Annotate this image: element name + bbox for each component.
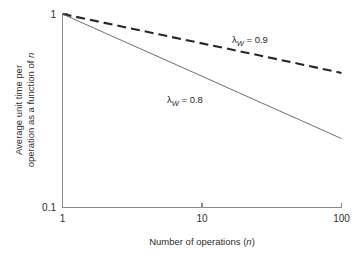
x-axis-title-prefix: Number of operations ( [149,236,247,247]
y-ticklabel-0.1: 0.1 [42,202,56,213]
y-axis-title: Average unit time per operation as a fun… [13,53,36,168]
x-ticklabel-1: 1 [60,213,66,224]
chart-svg: 1 10 100 1 0.1 Number of operations (n) … [0,0,362,257]
annotation-lambda-0-8: λW = 0.8 [167,94,203,108]
annotation-value-low: 0.8 [190,94,203,105]
y-ticklabel-1: 1 [50,9,56,20]
x-ticklabel-10: 10 [196,213,208,224]
x-axis-title-suffix: ) [252,236,255,247]
x-ticklabel-100: 100 [333,213,350,224]
x-axis-ticks [63,203,342,208]
y-axis-title-line1: Average unit time per [13,65,24,155]
y-axis-ticks [63,14,68,208]
series-line-lambda-0-8 [63,14,342,139]
annotation-equals-low: = [179,94,190,105]
y-axis-title-variable: n [25,53,36,58]
series-line-lambda-0-9 [63,14,342,73]
annotation-value-high: 0.9 [255,34,268,45]
y-axis-title-line2: operation as a function of n [25,53,36,168]
data-series-group [63,14,342,139]
annotation-equals-high: = [244,34,255,45]
annotation-lambda-0-9: λW = 0.9 [232,34,268,48]
y-axis-title-line2-prefix: operation as a function of [25,58,36,167]
chart-figure: 1 10 100 1 0.1 Number of operations (n) … [0,0,362,257]
x-axis-title: Number of operations (n) [149,236,255,247]
